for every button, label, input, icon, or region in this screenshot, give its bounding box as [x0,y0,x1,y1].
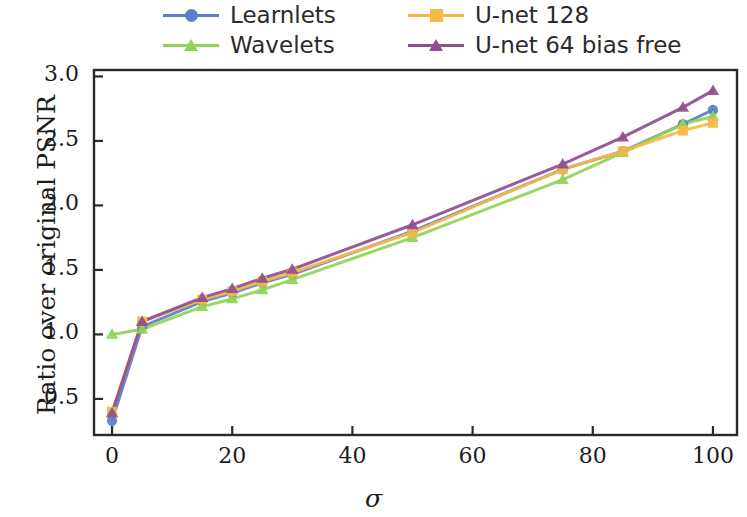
x-tick-label: 60 [423,443,523,468]
x-tick-label: 20 [182,443,282,468]
y-tick-label: 1.0 [0,319,79,344]
x-tick-label: 100 [663,443,747,468]
plot-area [0,0,747,517]
x-tick-label: 80 [543,443,643,468]
x-tick-label: 0 [62,443,162,468]
data-point-square-u-net-128 [708,118,718,128]
y-tick-label: 3.0 [0,61,79,86]
chart-figure: Learnlets U-net 128 Wavelets U-net 64 bi… [0,0,747,517]
series-line-u-net-128 [112,123,713,412]
data-point-triangle-u-net-64-bias-free [707,85,719,96]
y-tick-label: 2.5 [0,126,79,151]
y-tick-label: 0.5 [0,384,79,409]
y-tick-label: 2.0 [0,190,79,215]
x-tick-label: 40 [302,443,402,468]
x-axis-title: σ [0,484,747,513]
plot-border [94,70,737,435]
axis-ticks [94,76,713,435]
y-tick-label: 1.5 [0,255,79,280]
plot-frame [94,70,737,435]
data-point-square-u-net-128 [618,146,628,156]
data-point-square-u-net-128 [678,126,688,136]
data-series-group [106,85,719,426]
